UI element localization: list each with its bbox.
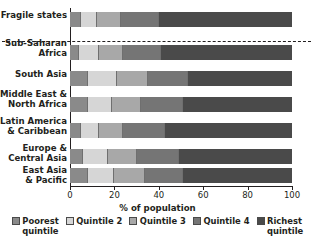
legend-label: Richest quintile xyxy=(267,216,303,236)
bar-segment[interactable] xyxy=(123,123,165,138)
category-label: East Asia & Pacific xyxy=(0,166,67,186)
x-tick-label-40: 40 xyxy=(153,190,164,200)
bar-segment[interactable] xyxy=(70,97,88,112)
fragile-states-separator xyxy=(2,41,311,42)
bar-segment[interactable] xyxy=(112,97,141,112)
bar-row[interactable] xyxy=(70,123,292,138)
bar-segment[interactable] xyxy=(99,45,123,60)
bar-segment[interactable] xyxy=(88,168,115,183)
bar-segment[interactable] xyxy=(70,123,81,138)
bar-segment[interactable] xyxy=(88,71,117,86)
legend-swatch-icon xyxy=(129,217,137,225)
bar-segment[interactable] xyxy=(117,71,148,86)
bar-row[interactable] xyxy=(70,12,292,27)
chart-legend: Poorest quintileQuintile 2Quintile 3Quin… xyxy=(0,216,315,236)
x-tick-label-0: 0 xyxy=(67,190,72,200)
bar-segment[interactable] xyxy=(83,149,107,164)
bar-segment[interactable] xyxy=(145,168,183,183)
legend-item[interactable]: Quintile 2 xyxy=(66,216,123,226)
category-label: Europe & Central Asia xyxy=(0,144,67,164)
bar-row[interactable] xyxy=(70,71,292,86)
category-label: Middle East & North Africa xyxy=(0,90,67,110)
bar-segment[interactable] xyxy=(70,149,83,164)
legend-swatch-icon xyxy=(66,217,74,225)
bar-segment[interactable] xyxy=(161,45,292,60)
legend-label: Quintile 2 xyxy=(76,216,122,226)
legend-item[interactable]: Richest quintile xyxy=(257,216,304,236)
bar-segment[interactable] xyxy=(97,12,121,27)
legend-label: Quintile 4 xyxy=(203,216,249,226)
bar-segment[interactable] xyxy=(121,12,159,27)
x-axis-line xyxy=(70,186,293,187)
legend-swatch-icon xyxy=(257,217,265,225)
bar-row[interactable] xyxy=(70,97,292,112)
bar-segment[interactable] xyxy=(79,45,99,60)
legend-label: Quintile 3 xyxy=(140,216,186,226)
legend-item[interactable]: Quintile 3 xyxy=(129,216,186,226)
bar-segment[interactable] xyxy=(179,149,292,164)
x-tick-label-100: 100 xyxy=(284,190,300,200)
x-tick-label-60: 60 xyxy=(198,190,209,200)
bar-segment[interactable] xyxy=(70,168,88,183)
bar-segment[interactable] xyxy=(70,71,88,86)
legend-item[interactable]: Poorest quintile xyxy=(12,216,59,236)
legend-item[interactable]: Quintile 4 xyxy=(193,216,250,226)
bar-segment[interactable] xyxy=(123,45,161,60)
category-label: Latin America & Caribbean xyxy=(0,117,67,137)
category-label: South Asia xyxy=(0,70,67,80)
bar-segment[interactable] xyxy=(114,168,145,183)
bar-segment[interactable] xyxy=(183,168,292,183)
bar-segment[interactable] xyxy=(141,97,183,112)
bar-segment[interactable] xyxy=(183,97,292,112)
bar-segment[interactable] xyxy=(137,149,179,164)
bar-segment[interactable] xyxy=(70,45,79,60)
bar-segment[interactable] xyxy=(70,12,81,27)
bar-segment[interactable] xyxy=(159,12,292,27)
legend-swatch-icon xyxy=(12,217,20,225)
bar-segment[interactable] xyxy=(108,149,137,164)
bar-segment[interactable] xyxy=(81,123,99,138)
bar-segment[interactable] xyxy=(88,97,112,112)
bar-segment[interactable] xyxy=(81,12,97,27)
x-tick-label-20: 20 xyxy=(109,190,120,200)
bar-row[interactable] xyxy=(70,168,292,183)
bar-segment[interactable] xyxy=(99,123,123,138)
legend-label: Poorest quintile xyxy=(22,216,58,236)
bar-row[interactable] xyxy=(70,149,292,164)
bar-segment[interactable] xyxy=(188,71,292,86)
bar-segment[interactable] xyxy=(148,71,188,86)
legend-swatch-icon xyxy=(193,217,201,225)
bar-segment[interactable] xyxy=(165,123,292,138)
x-axis-title: % of population xyxy=(0,203,315,213)
x-tick-label-80: 80 xyxy=(242,190,253,200)
stacked-bar-chart: 020406080100 Fragile statesSub-Saharan A… xyxy=(0,0,315,246)
bar-row[interactable] xyxy=(70,45,292,60)
category-label: Fragile states xyxy=(0,11,67,21)
